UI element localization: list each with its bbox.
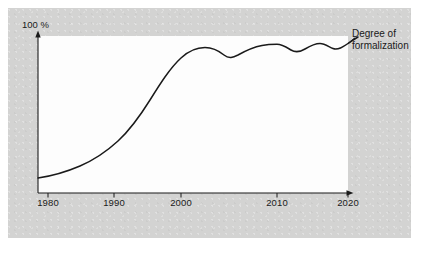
series-label-line-2: formalization xyxy=(352,40,409,52)
series-label-line-1: Degree of xyxy=(352,28,409,40)
x-tick-label-2000: 2000 xyxy=(170,197,192,208)
x-tick-label-1980: 1980 xyxy=(37,197,59,208)
x-tick-label-1990: 1990 xyxy=(103,197,125,208)
y-axis-max-label: 100 % xyxy=(22,19,49,30)
data-series-line-degree-of-formalization xyxy=(38,37,358,178)
figure-container: 100 % 1980 1990 2000 2010 2020 Degree of… xyxy=(0,0,421,253)
x-axis-ticks xyxy=(48,193,348,198)
x-axis xyxy=(38,190,354,195)
y-axis-arrowhead-icon xyxy=(35,31,40,38)
series-label: Degree of formalization xyxy=(352,28,409,51)
x-tick-label-2020: 2020 xyxy=(337,197,359,208)
y-axis xyxy=(35,31,40,194)
x-tick-label-2010: 2010 xyxy=(266,197,288,208)
